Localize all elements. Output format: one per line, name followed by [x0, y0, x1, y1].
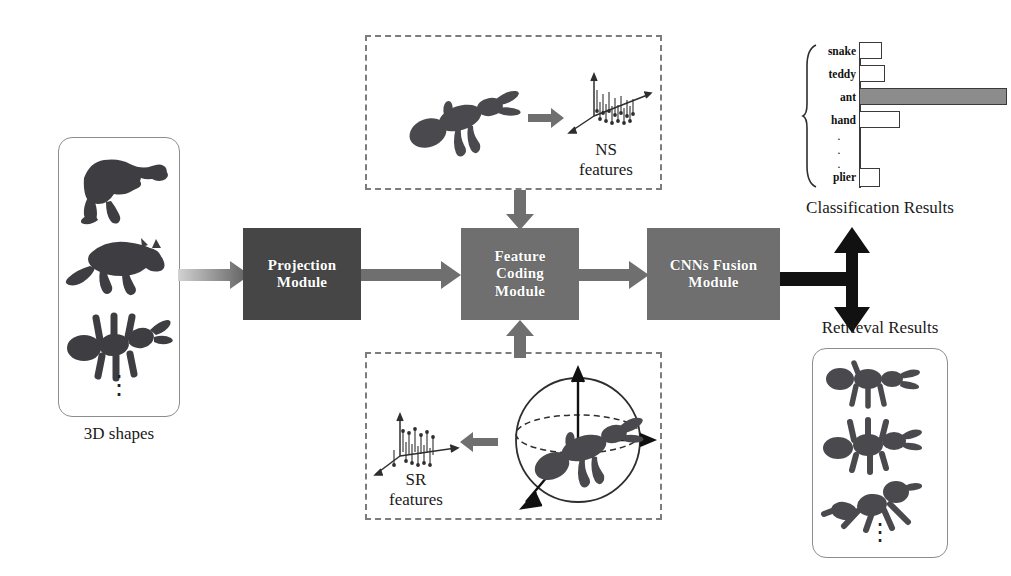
arrow-projection-to-feature-coding [361, 260, 461, 290]
ns-feature-axis-plot [566, 70, 654, 136]
ns-features-label-line1: NS [556, 140, 656, 160]
bar-ant [859, 88, 1007, 105]
retrieved-shape-ant-model-2 [820, 418, 932, 473]
retrieved-shape-ant-model-1 [822, 362, 932, 412]
classification-results-label: Classification Results [780, 198, 980, 218]
input-shapes-ellipsis: ⋮ [58, 373, 180, 399]
input-flow-arrow [178, 258, 250, 292]
sr-features-label-line1: SR [366, 470, 466, 490]
chart-ellipsis-2: · [824, 146, 854, 159]
module-cnns-fusion-module[interactable]: CNNs Fusion Module [647, 228, 780, 320]
sr-shape-ant-model-in-sphere [500, 362, 655, 514]
arrow-sr-to-feature-coding [505, 320, 535, 358]
module-projection-module[interactable]: Projection Module [243, 228, 361, 320]
arrow-ns-to-feature-coding [505, 190, 535, 230]
module-feature-coding-module[interactable]: Feature Coding Module [461, 228, 579, 320]
module-feature-coding-line3: Module [494, 283, 545, 300]
shape-human-figure-model [66, 150, 172, 225]
module-feature-coding-line1: Feature [494, 248, 545, 265]
module-cnns-fusion-line2: Module [670, 274, 758, 291]
sr-arrow-left [460, 432, 498, 452]
bar-label-plier: plier [812, 172, 856, 184]
ns-features-label-line2: features [556, 160, 656, 180]
module-projection-line1: Projection [268, 257, 336, 274]
ns-shape-ant-model-side-view [398, 85, 523, 160]
bar-plier [859, 168, 880, 187]
diagram-canvas: ⋮ 3D shapes Projection Module Feature Co… [0, 0, 1011, 576]
input-shapes-caption: 3D shapes [58, 424, 180, 444]
bar-teddy [859, 65, 885, 82]
module-feature-coding-line2: Coding [494, 265, 545, 282]
bar-label-hand: hand [812, 115, 856, 127]
bar-label-snake: snake [812, 46, 856, 58]
module-cnns-fusion-line1: CNNs Fusion [670, 257, 758, 274]
retrieval-results-ellipsis: ⋮ [812, 520, 948, 544]
retrieval-results-label: Retrieval Results [780, 318, 980, 338]
sr-features-label-line2: features [366, 490, 466, 510]
bar-hand [859, 111, 900, 128]
bar-label-ant: ant [812, 92, 856, 104]
ns-arrow-right [528, 108, 564, 128]
module-projection-line2: Module [268, 274, 336, 291]
shape-cat-model [64, 232, 172, 300]
arrow-feature-coding-to-cnns-fusion [579, 260, 649, 290]
chart-ellipsis-1: · [824, 132, 854, 145]
sr-feature-axis-plot [372, 408, 460, 478]
bar-snake [859, 42, 882, 59]
classification-bar-chart: snake teddy ant hand · · · plier [802, 42, 1007, 190]
bar-label-teddy: teddy [812, 69, 856, 81]
